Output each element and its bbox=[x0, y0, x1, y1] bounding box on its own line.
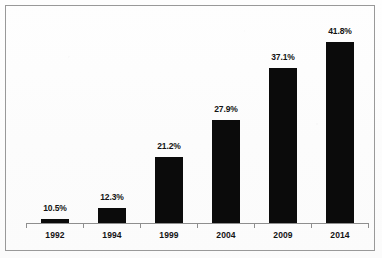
bar-rect[interactable] bbox=[212, 120, 240, 223]
chart-frame-border: 10.5% 1992 12.3% 1994 21.2% 1999 27.9% 2… bbox=[5, 5, 375, 251]
axis-tick bbox=[368, 223, 369, 228]
bar-group-2004[interactable]: 27.9% 2004 bbox=[198, 18, 254, 223]
axis-tick bbox=[26, 223, 27, 228]
bar-rect[interactable] bbox=[41, 219, 69, 223]
bar-rect[interactable] bbox=[326, 42, 354, 223]
bar-value-label: 41.8% bbox=[312, 26, 368, 36]
bar-value-label: 21.2% bbox=[141, 141, 197, 151]
bar-value-label: 12.3% bbox=[84, 192, 140, 202]
axis-tick bbox=[140, 223, 141, 228]
bar-category-label: 2004 bbox=[198, 230, 254, 240]
bar-category-label: 1999 bbox=[141, 230, 197, 240]
bar-rect[interactable] bbox=[155, 157, 183, 223]
bar-rect[interactable] bbox=[98, 208, 126, 223]
bar-value-label: 37.1% bbox=[255, 52, 311, 62]
bar-group-1992[interactable]: 10.5% 1992 bbox=[27, 18, 83, 223]
bar-category-label: 2014 bbox=[312, 230, 368, 240]
plot-area: 10.5% 1992 12.3% 1994 21.2% 1999 27.9% 2… bbox=[22, 18, 372, 228]
bar-group-1999[interactable]: 21.2% 1999 bbox=[141, 18, 197, 223]
bar-value-label: 27.9% bbox=[198, 104, 254, 114]
axis-tick bbox=[83, 223, 84, 228]
chart-screenshot: 10.5% 1992 12.3% 1994 21.2% 1999 27.9% 2… bbox=[0, 0, 382, 258]
axis-tick bbox=[254, 223, 255, 228]
bar-value-label: 10.5% bbox=[27, 203, 83, 213]
axis-tick bbox=[197, 223, 198, 228]
bar-group-1994[interactable]: 12.3% 1994 bbox=[84, 18, 140, 223]
bar-rect[interactable] bbox=[269, 68, 297, 223]
axis-tick bbox=[311, 223, 312, 228]
bar-category-label: 2009 bbox=[255, 230, 311, 240]
bar-group-2014[interactable]: 41.8% 2014 bbox=[312, 18, 368, 223]
bar-category-label: 1994 bbox=[84, 230, 140, 240]
bar-category-label: 1992 bbox=[27, 230, 83, 240]
bar-group-2009[interactable]: 37.1% 2009 bbox=[255, 18, 311, 223]
